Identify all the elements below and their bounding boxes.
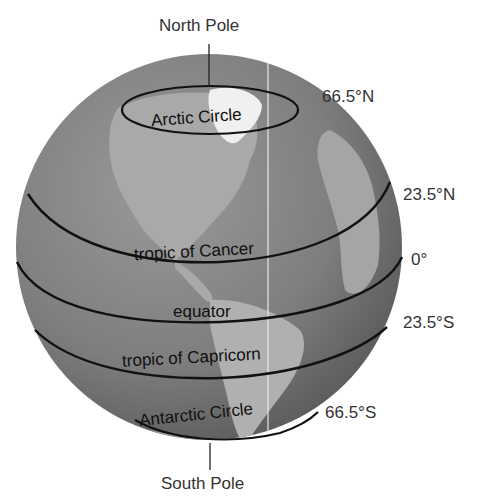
antarctic-latitude-label: 66.5°S <box>325 403 376 423</box>
tropic-of-capricorn-latitude-label: 23.5°S <box>403 313 454 333</box>
north-pole-label: North Pole <box>159 16 239 36</box>
arctic-latitude-label: 66.5°N <box>322 87 374 107</box>
equator-latitude-label: 0° <box>411 250 427 270</box>
equator-label: equator <box>173 302 231 322</box>
globe-diagram: North Pole Arctic Circle 66.5°N tropic o… <box>0 0 484 504</box>
south-pole-label: South Pole <box>161 474 244 494</box>
tropic-of-cancer-latitude-label: 23.5°N <box>403 185 455 205</box>
